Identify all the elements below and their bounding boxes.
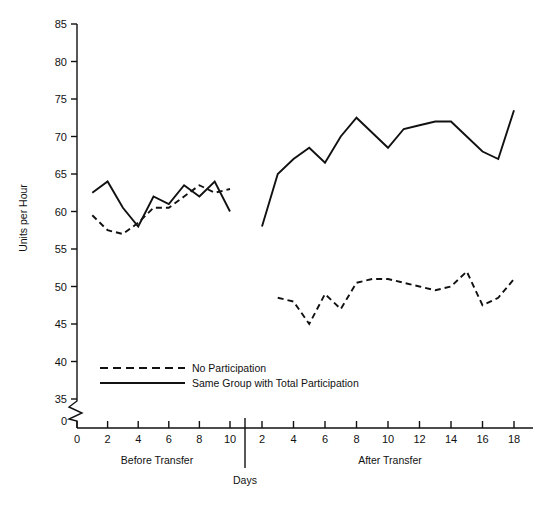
x-axis-tick-label: 16 <box>476 433 488 445</box>
legend-label-total-participation: Same Group with Total Participation <box>192 377 359 389</box>
y-axis-tick-label: 80 <box>55 56 67 68</box>
chart-background <box>0 0 553 506</box>
x-axis-title: Days <box>233 474 257 486</box>
y-axis-tick-label: 70 <box>55 131 67 143</box>
x-axis-tick-label: 8 <box>353 433 359 445</box>
y-axis-zero-label: 0 <box>61 415 67 427</box>
x-axis-tick-label: 8 <box>196 433 202 445</box>
panel-label-before: Before Transfer <box>121 454 194 466</box>
x-axis-tick-label: 2 <box>105 433 111 445</box>
y-axis-tick-label: 60 <box>55 206 67 218</box>
x-axis-tick-label: 10 <box>224 433 236 445</box>
x-axis-tick-label: 6 <box>322 433 328 445</box>
y-axis-tick-label: 35 <box>55 393 67 405</box>
x-axis-tick-label: 4 <box>290 433 296 445</box>
x-axis-tick-label: 2 <box>259 433 265 445</box>
line-chart-canvas: Units per Hour 35404550556065707580850 0… <box>0 0 553 506</box>
y-axis-tick-label: 55 <box>55 243 67 255</box>
y-axis-tick-label: 75 <box>55 93 67 105</box>
legend-label-no-participation: No Participation <box>192 362 266 374</box>
y-axis-title: Units per Hour <box>17 184 29 252</box>
x-axis-tick-label: 18 <box>508 433 520 445</box>
x-axis-tick-label: 6 <box>166 433 172 445</box>
x-axis-tick-label: 0 <box>74 433 80 445</box>
y-axis-tick-label: 45 <box>55 318 67 330</box>
x-axis-tick-label: 10 <box>382 433 394 445</box>
y-axis-tick-label: 50 <box>55 281 67 293</box>
y-axis-tick-label: 65 <box>55 168 67 180</box>
x-axis-tick-label: 4 <box>135 433 141 445</box>
x-axis-tick-label: 14 <box>445 433 457 445</box>
panel-label-after: After Transfer <box>358 454 422 466</box>
y-axis-tick-label: 85 <box>55 18 67 30</box>
y-axis-tick-label: 40 <box>55 356 67 368</box>
chart-figure: Units per Hour 35404550556065707580850 0… <box>0 0 553 506</box>
x-axis-tick-label: 12 <box>413 433 425 445</box>
